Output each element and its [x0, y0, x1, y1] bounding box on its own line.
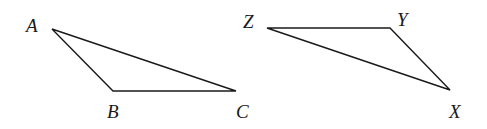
triangle-zyx: Z Y X	[243, 9, 462, 122]
vertex-label-x: X	[448, 101, 462, 122]
vertex-label-y: Y	[397, 9, 410, 30]
vertex-label-c: C	[236, 101, 249, 122]
vertex-label-a: A	[24, 15, 38, 36]
triangle-abc: A B C	[24, 15, 249, 122]
triangle-abc-outline	[52, 29, 236, 91]
triangle-zyx-outline	[267, 28, 450, 90]
triangles-diagram: A B C Z Y X	[0, 0, 487, 129]
vertex-label-b: B	[107, 101, 119, 122]
vertex-label-z: Z	[243, 11, 254, 32]
